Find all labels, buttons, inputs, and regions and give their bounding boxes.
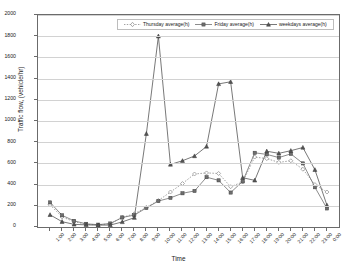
series-point [277, 156, 280, 159]
x-axis-tick-mark [302, 228, 303, 231]
x-axis-tick-label: 12:00 [188, 232, 200, 244]
series-point [253, 151, 256, 154]
series-point [217, 179, 220, 182]
x-axis-tick-mark [326, 228, 327, 231]
x-axis-tick-label: 19:00 [272, 232, 284, 244]
series-point [325, 207, 328, 210]
x-axis-tick-mark [73, 228, 74, 231]
traffic-flow-chart: Traffic flow, (vehicle/hr) 2000180016001… [0, 0, 357, 274]
x-axis-tick-mark [314, 228, 315, 231]
x-axis-tick-mark [254, 228, 255, 231]
x-axis-tick-label: 1:00 [55, 232, 65, 242]
series-point [60, 214, 63, 217]
series-point [169, 196, 172, 199]
series-point [121, 216, 124, 219]
y-axis-tick-label: 1200 [0, 96, 16, 101]
x-axis-tick-label: 15:00 [224, 232, 236, 244]
x-axis-tick-mark [230, 228, 231, 231]
x-axis-tick-mark [266, 228, 267, 231]
x-axis-tick-mark [121, 228, 122, 231]
series-point [265, 149, 269, 153]
y-axis-tick-label: 1600 [0, 54, 16, 59]
x-axis-tick-mark [97, 228, 98, 231]
series-point [48, 213, 52, 217]
x-axis-tick-mark [218, 228, 219, 231]
x-axis-tick-mark [242, 228, 243, 231]
y-axis-tick-label: 0 [0, 223, 16, 228]
series-point [181, 192, 184, 195]
series-point [205, 171, 209, 175]
x-axis-tick-mark [290, 228, 291, 231]
legend-entry-thursday[interactable]: Thursday average(h) [124, 21, 189, 28]
x-axis-tick-label: 5:00 [103, 232, 113, 242]
series-point [301, 145, 305, 149]
grid-line [38, 206, 339, 207]
x-axis-title: Time [0, 256, 357, 262]
series-point [217, 171, 221, 175]
series-point [145, 206, 148, 209]
x-axis-tick-label: 11:00 [176, 232, 188, 244]
grid-line [38, 57, 339, 58]
x-axis-tick-mark [109, 228, 110, 231]
x-axis-tick-label: 16:00 [236, 232, 248, 244]
grid-line [38, 79, 339, 80]
x-axis-tick-label: 22:00 [309, 232, 321, 244]
x-axis-tick-label: 8:00 [139, 232, 149, 242]
x-axis-tick-mark [145, 228, 146, 231]
legend-entry-friday[interactable]: Friday average(h) [195, 21, 253, 28]
y-axis-tick-label: 2000 [0, 11, 16, 16]
x-axis-tick-label: 20:00 [284, 232, 296, 244]
series-point [229, 80, 233, 84]
x-axis-tick-mark [133, 228, 134, 231]
grid-line [38, 15, 339, 16]
series-point [48, 201, 51, 204]
legend-label-friday: Friday average(h) [214, 22, 253, 27]
x-axis-tick-mark [157, 228, 158, 231]
series-point [144, 132, 148, 136]
x-axis-tick-label: 21:00 [296, 232, 308, 244]
legend-marker-square-icon [195, 21, 212, 28]
series-point [193, 189, 196, 192]
x-axis-tick-mark [49, 228, 50, 231]
x-axis-tick-label: 4:00 [91, 232, 101, 242]
x-axis-tick-mark [278, 228, 279, 231]
series-point [313, 168, 317, 172]
series-point [60, 220, 64, 224]
series-point [313, 186, 316, 189]
series-point [157, 199, 160, 202]
plot-area [37, 14, 340, 228]
legend-label-thursday: Thursday average(h) [143, 22, 189, 27]
y-axis-tick-label: 1400 [0, 75, 16, 80]
x-axis-tick-mark [61, 228, 62, 231]
y-axis-tick-label: 1000 [0, 117, 16, 122]
series-point [289, 159, 293, 163]
chart-legend: Thursday average(h) Friday average(h) we… [117, 19, 334, 30]
x-axis-tick-mark [194, 228, 195, 231]
y-axis-tick-label: 800 [0, 139, 16, 144]
x-axis-tick-label: 3:00 [79, 232, 89, 242]
x-axis-tick-mark [85, 228, 86, 231]
legend-marker-diamond-icon [124, 21, 141, 28]
x-axis-tick-label: 7:00 [127, 232, 137, 242]
y-axis-tick-label: 400 [0, 181, 16, 186]
x-axis-tick-label: 18:00 [260, 232, 272, 244]
x-axis-tick-label: 0:00 [332, 232, 342, 242]
x-axis-tick-mark [181, 228, 182, 231]
series-point [289, 152, 292, 155]
series-point [205, 144, 209, 148]
series-point [241, 180, 244, 183]
grid-line [38, 121, 339, 122]
grid-line [38, 163, 339, 164]
x-axis-tick-label: 6:00 [115, 232, 125, 242]
grid-line [38, 36, 339, 37]
x-axis-tick-label: 9:00 [151, 232, 161, 242]
x-axis-tick-mark [206, 228, 207, 231]
legend-entry-weekdays[interactable]: weekdays average(h) [260, 21, 327, 28]
grid-line [38, 100, 339, 101]
legend-label-weekdays: weekdays average(h) [279, 22, 327, 27]
grid-line [38, 142, 339, 143]
grid-line [38, 185, 339, 186]
series-point [229, 191, 232, 194]
y-axis-title: Traffic flow, (vehicle/hr) [18, 34, 24, 164]
legend-marker-triangle-icon [260, 21, 277, 28]
